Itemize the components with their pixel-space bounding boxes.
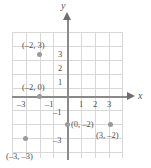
y-tick-label-neg1: –1: [53, 108, 62, 117]
point-label: (–2, 3): [22, 41, 45, 50]
y-tick-label-1: 1: [58, 78, 62, 87]
x-tick-label-3: 3: [107, 100, 111, 109]
x-tick-label-neg3: –3: [17, 100, 26, 109]
plotted-point: [65, 122, 70, 127]
gridline-vertical: [12, 32, 13, 158]
plotted-point: [23, 136, 28, 141]
y-axis: [67, 18, 69, 160]
coordinate-plane-figure: x y –3 –1 1 2 3 3 2 1 –1 –3 (–2, 3) (–2,…: [0, 0, 151, 168]
point-label: (–2, 0): [22, 83, 45, 92]
x-axis-arrow-icon: [127, 92, 135, 100]
y-tick-label-3: 3: [58, 50, 62, 59]
x-tick-label-2: 2: [93, 100, 97, 109]
x-tick-label-1: 1: [79, 100, 83, 109]
point-label: (–3, –3): [6, 152, 33, 161]
x-axis-label: x: [138, 91, 142, 101]
point-label: (3, –2): [96, 131, 119, 140]
y-axis-arrow-icon: [63, 12, 71, 20]
y-tick-label-2: 2: [58, 64, 62, 73]
point-label: (0, –2): [71, 120, 94, 129]
plotted-point: [37, 52, 42, 57]
gridline-vertical: [81, 32, 82, 158]
y-tick-label-neg3: –3: [53, 136, 62, 145]
plotted-point: [37, 94, 42, 99]
plotted-point: [108, 122, 113, 127]
x-axis: [12, 96, 129, 98]
y-axis-label: y: [61, 1, 65, 11]
gridline-vertical: [122, 32, 123, 158]
